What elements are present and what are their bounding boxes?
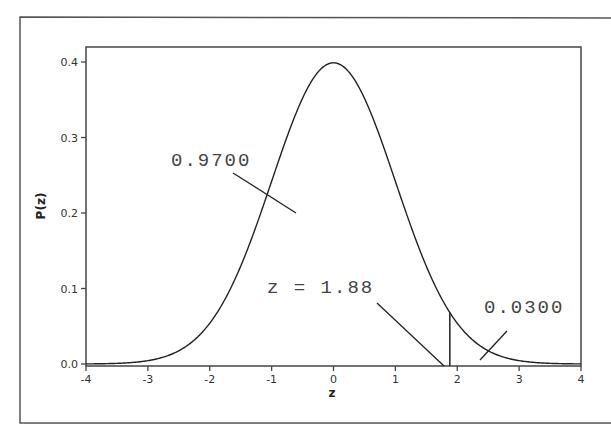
y-axis-ticks: 0.00.10.20.30.4 xyxy=(61,56,87,371)
x-tick-label: -3 xyxy=(142,373,153,386)
x-tick-label: 4 xyxy=(578,373,585,386)
x-tick-label: -1 xyxy=(266,373,277,386)
x-tick-label: -2 xyxy=(204,373,215,386)
y-tick-label: 0.1 xyxy=(61,283,79,296)
y-tick-label: 0.3 xyxy=(61,132,79,145)
x-tick-label: 3 xyxy=(516,373,523,386)
x-tick-label: 2 xyxy=(454,373,461,386)
z-marker-label: z = 1.88 xyxy=(267,277,374,299)
y-tick-label: 0.2 xyxy=(61,207,79,220)
area-left-leader xyxy=(233,173,296,213)
outer-frame xyxy=(20,17,611,423)
y-tick-label: 0.4 xyxy=(61,56,79,69)
x-tick-label: 1 xyxy=(392,373,399,386)
x-axis-ticks: -4-3-2-101234 xyxy=(81,366,585,386)
y-axis-title: P(z) xyxy=(34,193,48,220)
x-tick-label: 0 xyxy=(330,373,337,386)
x-axis-title: z xyxy=(329,386,336,400)
z-marker-leader xyxy=(377,303,444,366)
y-tick-label: 0.0 xyxy=(61,358,79,371)
x-tick-label: -4 xyxy=(81,373,92,386)
area-left-label: 0.9700 xyxy=(171,150,251,172)
area-right-leader xyxy=(480,331,507,360)
normal-distribution-chart: 0.00.10.20.30.4 -4-3-2-101234 z P(z) 0.9… xyxy=(0,0,611,430)
area-right-label: 0.0300 xyxy=(484,297,564,319)
